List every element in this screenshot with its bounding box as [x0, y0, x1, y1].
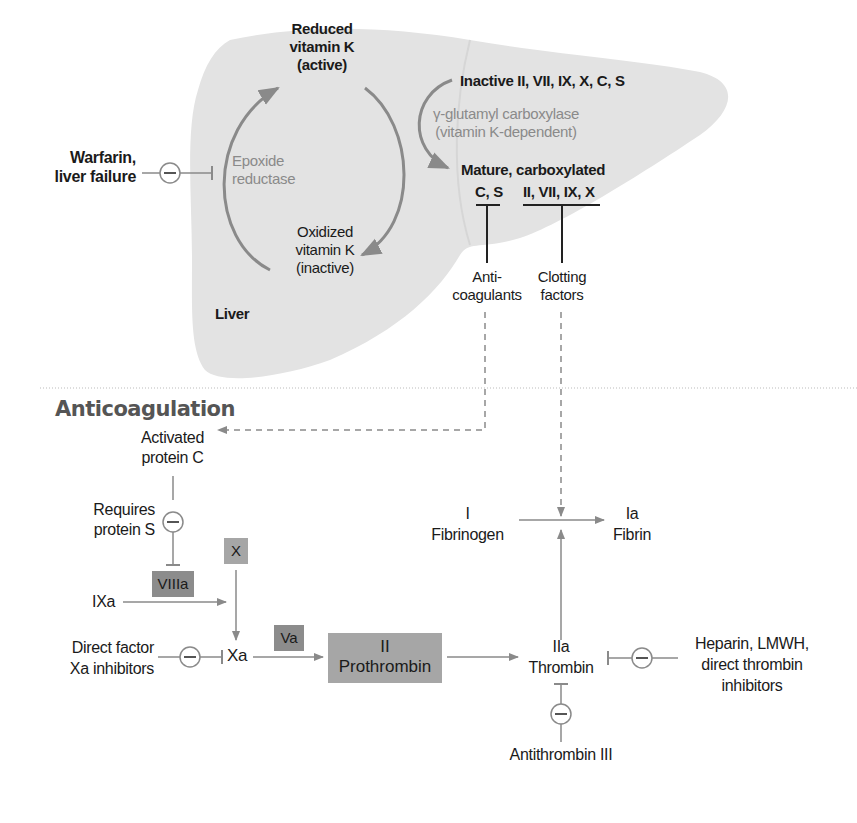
direct-xa-inhibitors: Direct factor Xa inhibitors — [50, 637, 154, 679]
warfarin-label: Warfarin, liver failure — [40, 148, 136, 186]
req-line1: Requires — [70, 500, 155, 520]
reduced-line3: (active) — [282, 56, 362, 74]
thrombin-numeral: IIa — [520, 636, 602, 657]
liver-label: Liver — [215, 305, 249, 323]
activated-protein-c: Activated protein C — [130, 428, 215, 468]
prothrombin-box: II Prothrombin — [328, 633, 442, 683]
anticoagulants-label: Anti- coagulants — [447, 268, 527, 304]
thrombin-label: IIa Thrombin — [520, 636, 602, 678]
thrombin-name: Thrombin — [520, 657, 602, 678]
mature-c-s: C, S — [475, 183, 503, 201]
warfarin-line2: liver failure — [40, 167, 136, 186]
heparin-label: Heparin, LMWH, direct thrombin inhibitor… — [682, 633, 822, 696]
heparin-line3: inhibitors — [682, 675, 822, 696]
factor-x-box: X — [224, 538, 248, 564]
oxidized-vitamin-k: Oxidized vitamin K (inactive) — [285, 223, 365, 277]
apc-line2: protein C — [130, 448, 215, 468]
fibrinogen-name: Fibrinogen — [425, 524, 510, 545]
oxidized-line3: (inactive) — [285, 259, 365, 277]
oxidized-line2: vitamin K — [285, 241, 365, 259]
requires-protein-s: Requires protein S — [70, 500, 155, 540]
fibrin-label: Ia Fibrin — [607, 503, 657, 545]
epoxide-reductase: Epoxide reductase — [232, 152, 295, 188]
reduced-vitamin-k: Reduced vitamin K (active) — [282, 20, 362, 74]
epoxide-line1: Epoxide — [232, 152, 295, 170]
req-line2: protein S — [70, 520, 155, 540]
epoxide-line2: reductase — [232, 170, 295, 188]
clotting-factors-label: Clotting factors — [532, 268, 592, 304]
anticoag-line2: coagulants — [447, 286, 527, 304]
heparin-line2: direct thrombin — [682, 654, 822, 675]
inactive-factors: Inactive II, VII, IX, X, C, S — [460, 72, 625, 90]
fibrinogen-numeral: I — [425, 503, 510, 524]
prothrombin-numeral: II — [328, 637, 442, 657]
reduced-line1: Reduced — [282, 20, 362, 38]
clotting-line1: Clotting — [532, 268, 592, 286]
heparin-line1: Heparin, LMWH, — [682, 633, 822, 654]
section-title: Anticoagulation — [55, 397, 235, 421]
prothrombin-name: Prothrombin — [328, 657, 442, 677]
dxa-line2: Xa inhibitors — [50, 658, 154, 679]
factor-ixa: IXa — [92, 593, 115, 611]
factor-va-box: Va — [274, 625, 304, 651]
oxidized-line1: Oxidized — [285, 223, 365, 241]
carboxylase-line2: (vitamin K-dependent) — [421, 123, 591, 141]
fibrinogen-label: I Fibrinogen — [425, 503, 510, 545]
fibrin-numeral: Ia — [607, 503, 657, 524]
anticoag-line1: Anti- — [447, 268, 527, 286]
carboxylase-line1: γ-glutamyl carboxylase — [421, 105, 591, 123]
clotting-line2: factors — [532, 286, 592, 304]
factor-viiia-box: VIIIa — [152, 571, 194, 597]
antithrombin-label: Antithrombin III — [498, 746, 624, 764]
fibrin-name: Fibrin — [607, 524, 657, 545]
mature-carboxylated: Mature, carboxylated — [461, 161, 605, 179]
apc-line1: Activated — [130, 428, 215, 448]
dxa-line1: Direct factor — [50, 637, 154, 658]
reduced-line2: vitamin K — [282, 38, 362, 56]
mature-clotting-factors: II, VII, IX, X — [523, 183, 595, 201]
carboxylase-label: γ-glutamyl carboxylase (vitamin K-depend… — [421, 105, 591, 141]
factor-xa: Xa — [227, 647, 247, 665]
warfarin-line1: Warfarin, — [40, 148, 136, 167]
